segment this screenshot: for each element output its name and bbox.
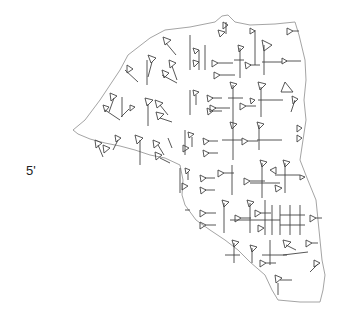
tablet-figure: 5': [0, 0, 346, 318]
tablet-drawing: [0, 0, 346, 318]
